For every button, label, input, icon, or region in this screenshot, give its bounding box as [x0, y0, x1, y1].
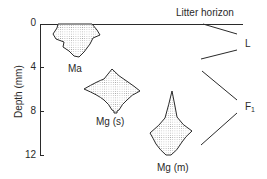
f1-bracket-top: [202, 71, 237, 100]
tick-label-8: 8: [22, 106, 36, 116]
tick-label-12: 12: [22, 150, 36, 160]
l-bracket-top: [203, 24, 237, 34]
mg-m-distribution-shape: [150, 91, 192, 155]
l-horizon-label: L: [245, 39, 251, 49]
depth-distribution-diagram: [0, 0, 267, 179]
tick-label-4: 4: [22, 62, 36, 72]
l-bracket-bottom: [201, 50, 237, 59]
ma-label: Ma: [68, 64, 82, 74]
mg-m-label: Mg (m): [157, 163, 189, 173]
ma-distribution-shape: [53, 24, 100, 57]
tick-label-0: 0: [22, 18, 36, 28]
litter-horizon-label: Litter horizon: [176, 8, 234, 18]
f1-bracket-bottom: [201, 113, 237, 145]
f1-horizon-label: F1: [245, 102, 255, 115]
mg-s-label: Mg (s): [96, 117, 124, 127]
y-axis-title: Depth (mm): [14, 65, 24, 118]
f-subscript: 1: [251, 106, 255, 113]
mg-s-distribution-shape: [84, 69, 140, 113]
